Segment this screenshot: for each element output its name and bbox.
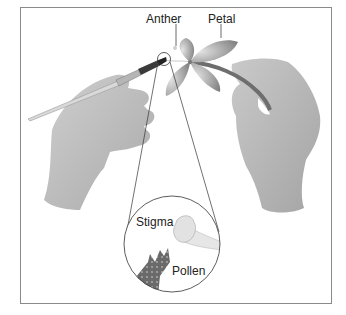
magnified-view [124, 196, 222, 296]
flower [166, 38, 238, 96]
left-hand [44, 75, 154, 210]
label-anther: Anther [146, 13, 181, 25]
anther-dot [173, 46, 177, 50]
label-petal: Petal [208, 13, 235, 25]
label-pollen: Pollen [172, 265, 205, 277]
label-stigma: Stigma [136, 216, 173, 228]
